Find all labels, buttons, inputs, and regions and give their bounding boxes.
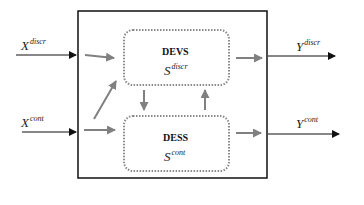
x-cont-base: X	[21, 115, 29, 130]
y-cont-label: Ycont	[296, 116, 318, 130]
discr-to-devs-arrow	[85, 55, 114, 58]
x-discr-sup: discr	[30, 37, 46, 46]
cont-to-devs-arrow	[94, 81, 116, 119]
y-discr-sup: discr	[304, 38, 320, 47]
dess-symbol-sup: cont	[172, 148, 186, 157]
x-discr-base: X	[21, 38, 29, 53]
devs-symbol-sup: discr	[172, 62, 188, 71]
dess-symbol: Scont	[164, 149, 185, 163]
devs-symbol: Sdiscr	[164, 63, 188, 77]
y-discr-label: Ydiscr	[296, 39, 320, 53]
y-cont-base: Y	[296, 116, 303, 131]
devs-symbol-base: S	[164, 63, 171, 78]
devs-title: DEVS	[162, 46, 189, 57]
y-cont-sup: cont	[304, 115, 318, 124]
diagram-graphics	[0, 0, 364, 205]
dess-title: DESS	[163, 132, 188, 143]
diagram-canvas: Xdiscr Xcont Ydiscr Ycont DEVS Sdiscr DE…	[0, 0, 364, 205]
y-discr-base: Y	[296, 39, 303, 54]
x-cont-sup: cont	[30, 114, 44, 123]
x-discr-label: Xdiscr	[21, 38, 46, 52]
x-cont-label: Xcont	[21, 115, 44, 129]
dess-symbol-base: S	[164, 149, 171, 164]
